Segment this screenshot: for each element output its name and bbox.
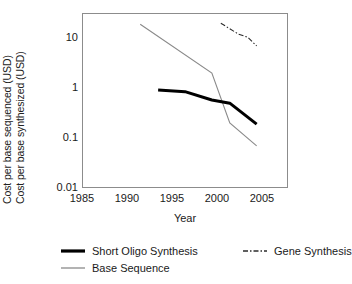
y-tick-label-0-1: 0.1 xyxy=(30,132,78,143)
legend-swatch-dash-dot-icon xyxy=(242,245,268,257)
legend-label-base-sequence: Base Sequence xyxy=(92,262,170,274)
series-line-short-oligo-synthesis xyxy=(158,90,257,124)
y-tick-label-10: 10 xyxy=(30,32,78,43)
legend-item-base-sequence: Base Sequence xyxy=(60,260,170,276)
plot-data-layer xyxy=(82,13,288,188)
legend-swatch-solid-thin-icon xyxy=(60,262,86,274)
y-axis-title-line-1: Cost per base sequenced (USD) xyxy=(1,14,15,204)
chart-legend: Short Oligo Synthesis Gene Synthesis Bas… xyxy=(52,243,334,279)
x-axis-title: Year xyxy=(82,212,288,224)
x-tick-label-1985: 1985 xyxy=(62,192,102,205)
x-tick-label-1990: 1990 xyxy=(107,192,147,205)
y-axis-tick-labels: 10 1 0.1 0.01 xyxy=(30,0,78,200)
series-line-gene-synthesis xyxy=(221,23,257,46)
x-axis-tick-labels: 1985 1990 1995 2000 2005 xyxy=(62,192,330,208)
x-tick-label-1995: 1995 xyxy=(152,192,192,205)
legend-label-gene-synthesis: Gene Synthesis xyxy=(274,245,352,257)
series-line-base-sequence xyxy=(140,24,256,146)
x-tick-label-2005: 2005 xyxy=(242,192,282,205)
y-tick-label-1: 1 xyxy=(30,82,78,93)
legend-swatch-solid-thick-icon xyxy=(60,245,86,257)
legend-item-gene-synthesis: Gene Synthesis xyxy=(242,243,352,259)
legend-label-short-oligo-synthesis: Short Oligo Synthesis xyxy=(92,245,198,257)
y-axis-title-line-2: Cost per base synthesized (USD) xyxy=(14,14,28,204)
x-tick-label-2000: 2000 xyxy=(197,192,237,205)
legend-item-short-oligo-synthesis: Short Oligo Synthesis xyxy=(60,243,198,259)
